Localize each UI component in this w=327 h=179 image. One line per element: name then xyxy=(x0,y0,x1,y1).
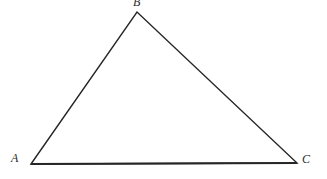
vertex-label-c: C xyxy=(302,153,310,165)
vertex-label-a: A xyxy=(11,152,18,164)
triangle-outline xyxy=(31,12,297,164)
triangle-edge-ac xyxy=(31,163,297,164)
triangle-shape xyxy=(0,0,327,179)
vertex-label-b: B xyxy=(133,0,140,8)
geometry-figure: A B C xyxy=(0,0,327,179)
